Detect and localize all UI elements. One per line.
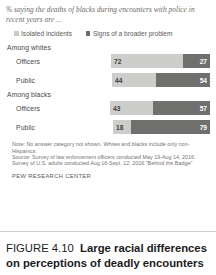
- bar-segment-isolated: 18: [113, 120, 131, 134]
- bar-row-blacks-public: Public 18 79: [6, 119, 210, 135]
- bar-stack: 43 57: [110, 101, 210, 115]
- bar-segment-broader: 54: [156, 73, 210, 87]
- legend-swatch-icon-isolated: [14, 31, 19, 36]
- bar-area: 44 54: [50, 73, 210, 87]
- bar-segment-broader: 57: [153, 101, 210, 115]
- bar-stack: 18 79: [113, 120, 210, 134]
- chart-block: % saying the deaths of blacks during enc…: [0, 0, 216, 179]
- legend-swatch-icon-broader: [86, 31, 91, 36]
- legend-label-isolated: Isolated incidents: [21, 30, 72, 37]
- chart-attribution: PEW RESEARCH CENTER: [12, 173, 204, 179]
- bar-row-label: Officers: [6, 58, 50, 65]
- chart-note: Note: No answer category not shown. Whit…: [12, 141, 204, 154]
- bar-segment-isolated: 43: [110, 101, 153, 115]
- group-label-blacks: Among blacks: [7, 91, 210, 98]
- figure-caption-number: FIGURE 4.10: [6, 242, 74, 254]
- bar-row-label: Public: [6, 77, 50, 84]
- chart-title: % saying the deaths of blacks during enc…: [6, 5, 202, 24]
- bar-segment-isolated: 72: [111, 54, 183, 68]
- legend-label-broader: Signs of a broader problem: [93, 30, 173, 37]
- chart-notes: Note: No answer category not shown. Whit…: [12, 141, 204, 167]
- group-label-whites: Among whites: [7, 44, 210, 51]
- bar-area: 72 27: [50, 54, 210, 68]
- figure-container: % saying the deaths of blacks during enc…: [0, 0, 216, 275]
- bar-stack: 72 27: [111, 54, 210, 68]
- bar-row-blacks-officers: Officers 43 57: [6, 100, 210, 116]
- figure-caption-text: FIGURE 4.10 Large racial differences on …: [6, 241, 210, 271]
- chart-source: Source: Survey of law enforcement office…: [12, 154, 204, 167]
- group-among-blacks: Among blacks Officers 43 57 Public 18 79: [6, 91, 210, 135]
- figure-caption: FIGURE 4.10 Large racial differences on …: [0, 231, 216, 271]
- bar-segment-broader: 79: [131, 120, 210, 134]
- bar-segment-broader: 27: [183, 54, 210, 68]
- bar-row-whites-officers: Officers 72 27: [6, 53, 210, 69]
- bar-stack: 44 54: [112, 73, 210, 87]
- legend-item-broader-problem: Signs of a broader problem: [86, 30, 173, 37]
- bar-segment-isolated: 44: [112, 73, 156, 87]
- bar-row-label: Public: [6, 124, 50, 131]
- bar-row-whites-public: Public 44 54: [6, 72, 210, 88]
- bar-area: 18 79: [50, 120, 210, 134]
- group-among-whites: Among whites Officers 72 27 Public 44 54: [6, 44, 210, 88]
- chart-legend: Isolated incidents Signs of a broader pr…: [14, 30, 210, 37]
- bar-area: 43 57: [50, 101, 210, 115]
- bar-row-label: Officers: [6, 105, 50, 112]
- legend-item-isolated-incidents: Isolated incidents: [14, 30, 72, 37]
